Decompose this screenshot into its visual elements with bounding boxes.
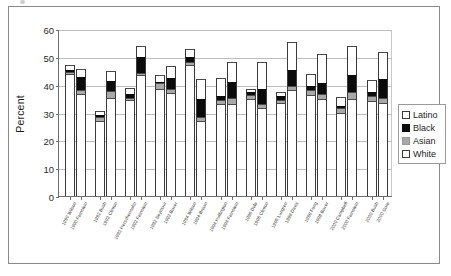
bar-group: [59, 30, 392, 196]
bar-segment-black: [196, 99, 206, 117]
bar-segment-latino: [106, 71, 116, 81]
bar-segment-white: [336, 113, 346, 197]
x-tick-mark: [160, 196, 161, 200]
bar: [125, 88, 135, 196]
bar: [317, 54, 327, 196]
bar-segment-latino: [287, 42, 297, 70]
legend-label: Latino: [413, 110, 438, 120]
bar: [257, 62, 267, 196]
bar: [65, 65, 75, 196]
bar: [246, 89, 256, 196]
legend-swatch-asian: [402, 137, 410, 145]
bar-segment-white: [306, 95, 316, 196]
bar-segment-white: [196, 121, 206, 196]
bar-segment-black: [287, 70, 297, 86]
bar: [367, 80, 377, 196]
plot-area: 0102030405060: [58, 30, 392, 197]
legend-label: Asian: [413, 136, 436, 146]
bar-segment-latino: [306, 74, 316, 86]
x-tick-mark: [100, 196, 101, 200]
bar-segment-white: [125, 100, 135, 196]
bar-segment-latino: [76, 69, 86, 77]
bar: [336, 97, 346, 196]
bar: [76, 69, 86, 196]
legend-item-black: Black: [402, 121, 442, 134]
legend-swatch-white: [402, 150, 410, 158]
bar: [185, 49, 195, 196]
bar-segment-black: [317, 83, 327, 95]
x-tick-mark: [111, 196, 112, 200]
y-tick-label: 50: [43, 52, 54, 63]
y-tick-label: 0: [49, 192, 54, 203]
x-tick-mark: [322, 196, 323, 200]
bar-segment-latino: [378, 52, 388, 79]
bar-segment-white: [65, 74, 75, 196]
bar-segment-latino: [216, 78, 226, 96]
legend-label: Black: [413, 123, 435, 133]
bar-segment-white: [367, 101, 377, 196]
legend-label: White: [413, 149, 436, 159]
scan-artifact: [20, 0, 25, 4]
bar-segment-black: [347, 75, 357, 92]
bar: [106, 71, 116, 196]
x-tick-mark: [171, 196, 172, 200]
bar-segment-latino: [155, 75, 165, 82]
y-axis-label-text: Percent: [14, 95, 26, 133]
y-tick-label: 40: [43, 80, 54, 91]
bar: [216, 78, 226, 196]
x-tick-mark: [190, 196, 191, 200]
bar: [155, 75, 165, 196]
bar-segment-white: [216, 104, 226, 196]
bar-segment-latino: [347, 46, 357, 75]
bar-segment-white: [166, 93, 176, 196]
x-tick-label: 1992 Seymour: [149, 201, 168, 230]
x-tick-mark: [341, 196, 342, 200]
bar: [306, 74, 316, 196]
bar: [227, 62, 237, 196]
bar-segment-latino: [367, 80, 377, 92]
legend-swatch-black: [402, 124, 410, 132]
bar-segment-white: [76, 94, 86, 196]
y-axis-label: Percent: [13, 30, 27, 197]
x-tick-mark: [81, 196, 82, 200]
legend-item-white: White: [402, 147, 442, 160]
bar-segment-white: [246, 99, 256, 196]
x-tick-mark: [141, 196, 142, 200]
x-tick-mark: [372, 196, 373, 200]
x-tick-mark: [130, 196, 131, 200]
y-tick-label: 60: [43, 25, 54, 36]
x-tick-mark: [281, 196, 282, 200]
y-tick-label: 30: [43, 108, 54, 119]
bar: [287, 42, 297, 196]
bar-segment-black: [136, 57, 146, 73]
x-tick-mark: [383, 196, 384, 200]
bar: [276, 92, 286, 196]
x-tick-label: 1996 Lungren: [270, 201, 288, 229]
bar-segment-black: [257, 89, 267, 104]
legend: LatinoBlackAsianWhite: [398, 104, 446, 164]
bar-segment-latino: [185, 49, 195, 57]
x-tick-mark: [262, 196, 263, 200]
bar-segment-white: [185, 65, 195, 196]
bar-segment-latino: [336, 97, 346, 106]
bar-segment-white: [347, 99, 357, 196]
legend-swatch-latino: [402, 111, 410, 119]
x-tick-mark: [232, 196, 233, 200]
bar-segment-latino: [257, 62, 267, 89]
chart-page: Percent 0102030405060 1990 Wilson1990 Fe…: [0, 0, 451, 276]
x-tick-mark: [311, 196, 312, 200]
bar-segment-black: [166, 78, 176, 88]
bar-segment-white: [257, 108, 267, 196]
bar-segment-black: [106, 81, 116, 91]
bar-segment-latino: [227, 62, 237, 82]
bar-segment-latino: [166, 66, 176, 78]
y-tick-label: 20: [43, 136, 54, 147]
bar-segment-white: [106, 98, 116, 196]
x-axis-labels: 1990 Wilson1990 Feinstein1992 Bush1992 C…: [58, 201, 392, 257]
bar-segment-white: [227, 104, 237, 196]
x-tick-mark: [251, 196, 252, 200]
x-tick-mark: [221, 196, 222, 200]
legend-item-asian: Asian: [402, 134, 442, 147]
y-tick-label: 10: [43, 164, 54, 175]
bar: [378, 52, 388, 196]
